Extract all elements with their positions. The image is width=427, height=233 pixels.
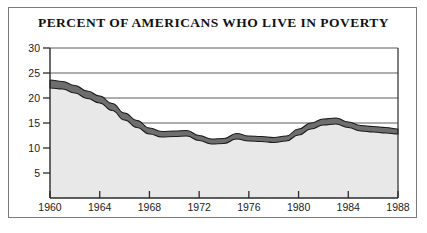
x-tick-label-1988: 1988 bbox=[386, 201, 410, 213]
y-axis-ticks-group bbox=[43, 48, 50, 173]
y-tick-label-15: 15 bbox=[28, 117, 40, 129]
poverty-chart-figure: PERCENT OF AMERICANS WHO LIVE IN POVERTY… bbox=[0, 0, 427, 233]
x-tick-label-1964: 1964 bbox=[88, 201, 112, 213]
y-tick-label-30: 30 bbox=[28, 42, 40, 54]
y-tick-label-25: 25 bbox=[28, 67, 40, 79]
y-tick-label-20: 20 bbox=[28, 92, 40, 104]
x-tick-label-1976: 1976 bbox=[237, 201, 261, 213]
x-tick-label-1968: 1968 bbox=[138, 201, 162, 213]
y-axis-labels-group: 51015202530 bbox=[28, 42, 40, 179]
y-tick-label-10: 10 bbox=[28, 142, 40, 154]
x-tick-label-1960: 1960 bbox=[38, 201, 62, 213]
x-tick-label-1984: 1984 bbox=[337, 201, 361, 213]
x-tick-label-1972: 1972 bbox=[187, 201, 211, 213]
y-tick-label-5: 5 bbox=[34, 167, 40, 179]
x-tick-label-1980: 1980 bbox=[287, 201, 311, 213]
x-axis-labels-group: 19601964196819721976198019841988 bbox=[38, 201, 410, 213]
chart-plot-area: 51015202530 1960196419681972197619801984… bbox=[0, 0, 427, 233]
